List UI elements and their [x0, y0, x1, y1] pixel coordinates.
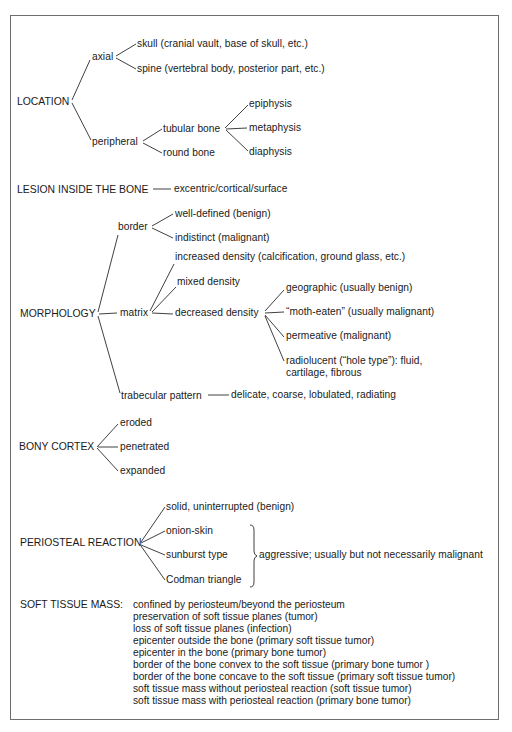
- soft-tissue-item: soft tissue mass without periosteal reac…: [133, 683, 455, 695]
- peripheral-label: peripheral: [92, 136, 138, 148]
- location-heading: LOCATION: [17, 96, 69, 108]
- onion-skin-item: onion-skin: [166, 525, 213, 537]
- aggressive-note: aggressive; usually but not necessarily …: [259, 549, 483, 561]
- lesion-value: excentric/cortical/surface: [174, 183, 287, 195]
- increased-density-item: increased density (calcification, ground…: [175, 251, 405, 263]
- soft-tissue-heading: SOFT TISSUE MASS:: [20, 599, 123, 611]
- epiphysis-item: epiphysis: [249, 98, 292, 110]
- soft-tissue-item: loss of soft tissue planes (infection): [133, 623, 455, 635]
- diaphysis-item: diaphysis: [249, 146, 292, 158]
- radiolucent-item: radiolucent (“hole type”): fluid,: [286, 355, 422, 367]
- morphology-heading: MORPHOLOGY: [20, 308, 96, 320]
- periosteal-heading: PERIOSTEAL REACTION: [20, 537, 141, 549]
- bony-cortex-heading: BONY CORTEX: [19, 441, 94, 453]
- permeative-item: permeative (malignant): [286, 330, 391, 342]
- eroded-item: eroded: [120, 417, 152, 429]
- matrix-label: matrix: [120, 307, 148, 319]
- soft-tissue-item: soft tissue mass with periosteal reactio…: [133, 695, 455, 707]
- moth-eaten-item: “moth-eaten” (usually malignant): [286, 306, 434, 318]
- soft-tissue-item: epicenter outside the bone (primary soft…: [133, 635, 455, 647]
- trabecular-value: delicate, coarse, lobulated, radiating: [231, 389, 396, 401]
- radiolucent-item-cont: cartilage, fibrous: [286, 367, 362, 379]
- soft-tissue-item: border of the bone concave to the soft t…: [133, 671, 455, 683]
- indistinct-item: indistinct (malignant): [175, 232, 270, 244]
- codman-item: Codman triangle: [166, 574, 242, 586]
- solid-item: solid, uninterrupted (benign): [166, 501, 294, 513]
- soft-tissue-item: preservation of soft tissue planes (tumo…: [133, 611, 455, 623]
- sunburst-item: sunburst type: [166, 549, 228, 561]
- lesion-heading: LESION INSIDE THE BONE: [17, 184, 148, 196]
- round-bone-item: round bone: [163, 147, 215, 159]
- soft-tissue-list: confined by periosteum/beyond the perios…: [133, 599, 455, 707]
- soft-tissue-item: confined by periosteum/beyond the perios…: [133, 599, 455, 611]
- soft-tissue-item: epicenter in the bone (primary bone tumo…: [133, 647, 455, 659]
- skull-item: skull (cranial vault, base of skull, etc…: [137, 38, 308, 50]
- border-label: border: [118, 221, 148, 233]
- penetrated-item: penetrated: [120, 441, 169, 453]
- expanded-item: expanded: [120, 465, 165, 477]
- tubular-bone-label: tubular bone: [163, 123, 220, 135]
- well-defined-item: well-defined (benign): [175, 208, 271, 220]
- geographic-item: geographic (usually benign): [286, 282, 413, 294]
- mixed-density-item: mixed density: [177, 276, 240, 288]
- decreased-density-label: decreased density: [175, 307, 259, 319]
- axial-label: axial: [92, 51, 113, 63]
- metaphysis-item: metaphysis: [249, 122, 301, 134]
- trabecular-label: trabecular pattern: [121, 390, 202, 402]
- soft-tissue-item: border of the bone convex to the soft ti…: [133, 659, 455, 671]
- spine-item: spine (vertebral body, posterior part, e…: [137, 63, 325, 75]
